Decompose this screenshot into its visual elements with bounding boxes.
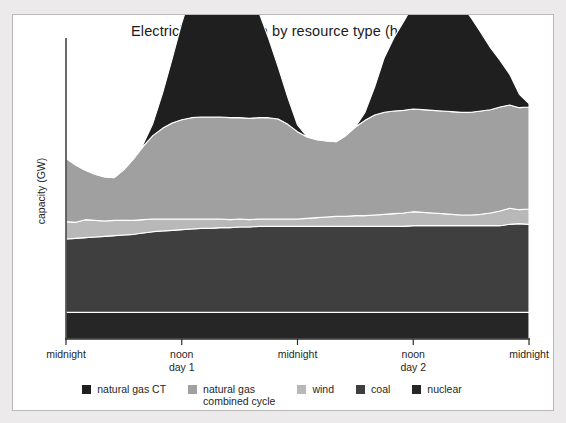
x-tick-label-4: midnight [469, 348, 566, 360]
area-series-nuclear [66, 312, 529, 339]
page-background: Electricity generation by resource type … [0, 0, 566, 423]
legend-swatch-icon [356, 385, 365, 394]
x-tick-label-1: noonday 1 [122, 348, 242, 373]
legend-item-1[interactable]: natural gas combined cycle [188, 383, 275, 407]
x-tick-label-sub: day 2 [353, 361, 473, 373]
x-tick-label-main: midnight [278, 348, 318, 360]
legend-label: natural gas CT [97, 383, 166, 395]
legend-swatch-icon [82, 385, 91, 394]
chart-legend: natural gas CTnatural gas combined cycle… [13, 383, 553, 407]
legend-item-2[interactable]: wind [297, 383, 334, 395]
area-series-coal [66, 224, 529, 313]
legend-label: natural gas combined cycle [203, 383, 275, 407]
legend-label: coal [371, 383, 390, 395]
x-tick-label-0: midnight [6, 348, 126, 360]
legend-item-3[interactable]: coal [356, 383, 390, 395]
x-tick-label-2: midnight [238, 348, 358, 360]
legend-label: nuclear [427, 383, 461, 395]
legend-item-0[interactable]: natural gas CT [82, 383, 166, 395]
legend-swatch-icon [188, 385, 197, 394]
x-tick-label-3: noonday 2 [353, 348, 473, 373]
legend-swatch-icon [297, 385, 306, 394]
x-tick-label-main: midnight [509, 348, 549, 360]
legend-swatch-icon [412, 385, 421, 394]
legend-label: wind [312, 383, 334, 395]
chart-areas [66, 15, 529, 339]
x-tick-label-main: noon [170, 348, 193, 360]
area-series-natural-gas-combined-cycle [66, 105, 529, 222]
chart-card: Electricity generation by resource type … [12, 14, 554, 411]
x-tick-label-main: noon [402, 348, 425, 360]
legend-item-4[interactable]: nuclear [412, 383, 461, 395]
x-tick-label-main: midnight [46, 348, 86, 360]
x-tick-label-sub: day 1 [122, 361, 242, 373]
